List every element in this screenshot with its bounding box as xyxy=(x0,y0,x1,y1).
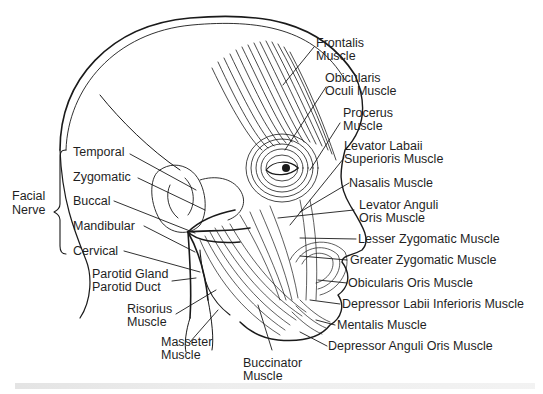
label-mandibular: Mandibular xyxy=(73,219,135,233)
label-risorius-line1: Risorius xyxy=(127,302,172,316)
orbicularis-oris xyxy=(290,242,347,295)
label-buccal: Buccal xyxy=(73,194,111,208)
label-frontalis-line2: Muscle xyxy=(316,49,356,63)
label-levator-anguli-line1: Levator Anguli xyxy=(359,198,438,212)
label-masseter-line1: Masseter xyxy=(161,335,212,349)
label-masseter-line2: Muscle xyxy=(161,348,201,362)
figure-caption-faded xyxy=(15,383,535,389)
facial-nerve-bracket xyxy=(54,150,66,254)
parotid-ear-region xyxy=(152,165,244,232)
label-levator-labii-line2: Superioris Muscle xyxy=(344,152,443,166)
label-parotid-gland: Parotid Gland xyxy=(92,267,168,281)
label-orbicularis-oculi-line1: Obicularis xyxy=(325,71,381,85)
label-levator-anguli-line2: Oris Muscle xyxy=(359,211,425,225)
facial-anatomy-figure: Facial Nerve Temporal Zygomatic Buccal M… xyxy=(0,0,543,394)
label-buccinator-line2: Muscle xyxy=(243,369,283,383)
label-orbicularis-oculi-line2: Oculi Muscle xyxy=(325,84,397,98)
eye xyxy=(266,162,298,174)
label-cervical: Cervical xyxy=(73,244,118,258)
cheek-muscles xyxy=(200,200,317,335)
label-greater-zygomatic: Greater Zygomatic Muscle xyxy=(350,253,497,267)
label-orbicularis-oris: Obicularis Oris Muscle xyxy=(348,276,473,290)
label-procerus-line1: Procerus xyxy=(343,106,393,120)
label-mentalis: Mentalis Muscle xyxy=(337,318,427,332)
label-lesser-zygomatic: Lesser Zygomatic Muscle xyxy=(358,232,500,246)
label-temporal: Temporal xyxy=(73,145,124,159)
label-zygomatic: Zygomatic xyxy=(73,170,131,184)
facial-nerve-label-line1: Facial xyxy=(12,189,45,203)
label-procerus-line2: Muscle xyxy=(343,119,383,133)
label-depressor-anguli: Depressor Anguli Oris Muscle xyxy=(328,339,493,353)
label-levator-labii-line1: Levator Labaii xyxy=(344,139,423,153)
skull-outline xyxy=(60,16,355,150)
label-parotid-duct: Parotid Duct xyxy=(92,280,161,294)
label-nasalis: Nasalis Muscle xyxy=(349,176,433,190)
label-risorius-line2: Muscle xyxy=(127,315,167,329)
label-frontalis-line1: Frontalis xyxy=(316,36,364,50)
facial-nerve-branches xyxy=(185,210,250,352)
facial-nerve-label-line2: Nerve xyxy=(12,203,45,217)
label-buccinator-line1: Buccinator xyxy=(243,356,302,370)
label-depressor-labii: Depressor Labii Inferioris Muscle xyxy=(342,297,524,311)
